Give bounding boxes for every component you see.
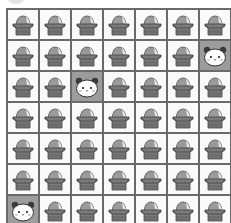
covered-box-icon bbox=[106, 75, 132, 99]
grid-cell-box-r3-c7[interactable] bbox=[200, 72, 231, 103]
covered-box-icon bbox=[74, 137, 100, 161]
grid-cell-box-r6-c6[interactable] bbox=[168, 165, 200, 196]
grid-cell-box-r1-c1[interactable] bbox=[8, 10, 40, 41]
grid-cell-box-r4-c5[interactable] bbox=[136, 103, 168, 134]
grid-cell-box-r2-c2[interactable] bbox=[40, 41, 72, 72]
covered-box-icon bbox=[170, 75, 196, 99]
covered-box-icon bbox=[74, 168, 100, 192]
covered-box-icon bbox=[106, 106, 132, 130]
covered-box-icon bbox=[74, 106, 100, 130]
covered-box-icon bbox=[138, 199, 164, 223]
covered-box-icon bbox=[202, 106, 228, 130]
covered-box-icon bbox=[106, 199, 132, 223]
grid-cell-box-r1-c6[interactable] bbox=[168, 10, 200, 41]
grid-cell-box-r5-c3[interactable] bbox=[72, 134, 104, 165]
grid-cell-box-r2-c5[interactable] bbox=[136, 41, 168, 72]
grid-cell-panda-r3-c3[interactable] bbox=[72, 72, 104, 103]
covered-box-icon bbox=[10, 137, 36, 161]
covered-box-icon bbox=[170, 44, 196, 68]
grid-cell-box-r5-c5[interactable] bbox=[136, 134, 168, 165]
covered-box-icon bbox=[138, 44, 164, 68]
covered-box-icon bbox=[170, 13, 196, 37]
grid-cell-box-r4-c6[interactable] bbox=[168, 103, 200, 134]
covered-box-icon bbox=[106, 13, 132, 37]
grid-cell-box-r7-c2[interactable] bbox=[40, 196, 72, 223]
covered-box-icon bbox=[202, 13, 228, 37]
grid-cell-box-r1-c2[interactable] bbox=[40, 10, 72, 41]
grid-cell-box-r7-c3[interactable] bbox=[72, 196, 104, 223]
covered-box-icon bbox=[10, 168, 36, 192]
grid-cell-box-r7-c7[interactable] bbox=[200, 196, 231, 223]
grid-cell-box-r6-c3[interactable] bbox=[72, 165, 104, 196]
covered-box-icon bbox=[138, 13, 164, 37]
panda-face-icon bbox=[74, 75, 100, 99]
grid-cell-box-r6-c1[interactable] bbox=[8, 165, 40, 196]
covered-box-icon bbox=[10, 44, 36, 68]
covered-box-icon bbox=[42, 137, 68, 161]
grid-cell-panda-r2-c7[interactable] bbox=[200, 41, 231, 72]
covered-box-icon bbox=[106, 168, 132, 192]
grid-cell-box-r2-c4[interactable] bbox=[104, 41, 136, 72]
grid-cell-box-r2-c3[interactable] bbox=[72, 41, 104, 72]
covered-box-icon bbox=[74, 199, 100, 223]
covered-box-icon bbox=[170, 168, 196, 192]
grid-cell-box-r3-c6[interactable] bbox=[168, 72, 200, 103]
partial-top-element bbox=[8, 0, 24, 4]
covered-box-icon bbox=[202, 137, 228, 161]
grid-cell-box-r5-c2[interactable] bbox=[40, 134, 72, 165]
grid-cell-box-r6-c4[interactable] bbox=[104, 165, 136, 196]
grid-cell-box-r2-c6[interactable] bbox=[168, 41, 200, 72]
covered-box-icon bbox=[10, 106, 36, 130]
grid-cell-box-r7-c6[interactable] bbox=[168, 196, 200, 223]
grid-cell-box-r5-c6[interactable] bbox=[168, 134, 200, 165]
covered-box-icon bbox=[10, 13, 36, 37]
grid-cell-box-r6-c2[interactable] bbox=[40, 165, 72, 196]
grid-cell-panda-r7-c1[interactable] bbox=[8, 196, 40, 223]
covered-box-icon bbox=[202, 168, 228, 192]
grid-cell-box-r4-c1[interactable] bbox=[8, 103, 40, 134]
covered-box-icon bbox=[42, 75, 68, 99]
grid-cell-box-r4-c7[interactable] bbox=[200, 103, 231, 134]
grid-cell-box-r3-c4[interactable] bbox=[104, 72, 136, 103]
covered-box-icon bbox=[42, 44, 68, 68]
grid-cell-box-r6-c7[interactable] bbox=[200, 165, 231, 196]
grid-cell-box-r3-c5[interactable] bbox=[136, 72, 168, 103]
covered-box-icon bbox=[138, 106, 164, 130]
grid-cell-box-r2-c1[interactable] bbox=[8, 41, 40, 72]
covered-box-icon bbox=[106, 137, 132, 161]
covered-box-icon bbox=[106, 44, 132, 68]
grid-cell-box-r1-c5[interactable] bbox=[136, 10, 168, 41]
grid-cell-box-r1-c7[interactable] bbox=[200, 10, 231, 41]
covered-box-icon bbox=[170, 137, 196, 161]
grid-cell-box-r4-c3[interactable] bbox=[72, 103, 104, 134]
covered-box-icon bbox=[138, 137, 164, 161]
covered-box-icon bbox=[170, 199, 196, 223]
covered-box-icon bbox=[42, 13, 68, 37]
covered-box-icon bbox=[74, 13, 100, 37]
grid-cell-box-r4-c4[interactable] bbox=[104, 103, 136, 134]
grid-cell-box-r5-c1[interactable] bbox=[8, 134, 40, 165]
grid-cell-box-r3-c2[interactable] bbox=[40, 72, 72, 103]
covered-box-icon bbox=[170, 106, 196, 130]
covered-box-icon bbox=[202, 75, 228, 99]
covered-box-icon bbox=[74, 44, 100, 68]
covered-box-icon bbox=[138, 75, 164, 99]
grid-cell-box-r4-c2[interactable] bbox=[40, 103, 72, 134]
panda-face-icon bbox=[202, 44, 228, 68]
grid-cell-box-r7-c5[interactable] bbox=[136, 196, 168, 223]
game-board bbox=[6, 8, 231, 223]
covered-box-icon bbox=[42, 106, 68, 130]
covered-box-icon bbox=[42, 199, 68, 223]
grid-cell-box-r5-c7[interactable] bbox=[200, 134, 231, 165]
panda-face-icon bbox=[10, 199, 36, 223]
covered-box-icon bbox=[10, 75, 36, 99]
grid-cell-box-r7-c4[interactable] bbox=[104, 196, 136, 223]
grid-cell-box-r3-c1[interactable] bbox=[8, 72, 40, 103]
grid-cell-box-r6-c5[interactable] bbox=[136, 165, 168, 196]
grid-cell-box-r1-c4[interactable] bbox=[104, 10, 136, 41]
grid-cell-box-r1-c3[interactable] bbox=[72, 10, 104, 41]
grid-cell-box-r5-c4[interactable] bbox=[104, 134, 136, 165]
covered-box-icon bbox=[138, 168, 164, 192]
covered-box-icon bbox=[42, 168, 68, 192]
covered-box-icon bbox=[202, 199, 228, 223]
